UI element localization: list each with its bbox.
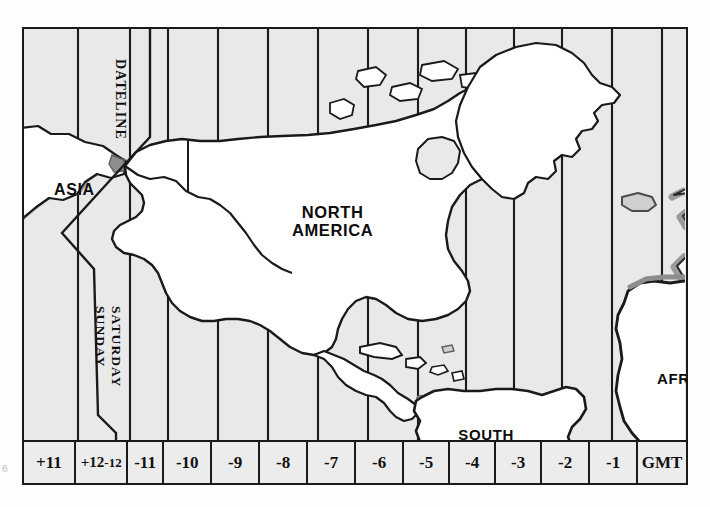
map-plot-area: DATELINE SATURDAY SUNDAY ASIA NORTH AMER… [24, 29, 686, 442]
zone-cell-minus9[interactable]: -9 [212, 442, 260, 483]
zone-label: -9 [228, 453, 242, 473]
zone-label: -8 [276, 453, 290, 473]
saturday-label: SATURDAY [108, 306, 124, 388]
zone-label: -11 [134, 453, 156, 473]
figure-canvas: 6 [0, 0, 710, 507]
zone-label: GMT [642, 453, 683, 473]
zone-cell-GMT[interactable]: GMT [638, 442, 686, 483]
page-margin-artifact: 6 [2, 462, 8, 474]
zone-label: -2 [558, 453, 572, 473]
zone-label-secondary: -12 [104, 455, 121, 471]
sunday-label: SUNDAY [92, 306, 108, 368]
zone-cell-minus8[interactable]: -8 [260, 442, 308, 483]
zone-label: -1 [606, 453, 620, 473]
zone-cell-minus5[interactable]: -5 [404, 442, 450, 483]
zone-cell-minus7[interactable]: -7 [308, 442, 356, 483]
zone-cell-minus11[interactable]: -11 [128, 442, 164, 483]
zone-cell-minus3[interactable]: -3 [496, 442, 542, 483]
zone-cell-plus12[interactable]: +12-12 [76, 442, 128, 483]
zone-cell-minus10[interactable]: -10 [164, 442, 212, 483]
asia-label: ASIA [54, 181, 95, 199]
zone-label: -4 [465, 453, 479, 473]
zone-label: -7 [324, 453, 338, 473]
zone-cell-minus1[interactable]: -1 [590, 442, 638, 483]
time-zone-offset-strip: +11+12-12-11-10-9-8-7-6-5-4-3-2-1GMT [24, 440, 686, 483]
zone-cell-minus6[interactable]: -6 [356, 442, 404, 483]
zone-label: -3 [511, 453, 525, 473]
zone-cell-minus2[interactable]: -2 [542, 442, 590, 483]
zone-label-primary: +12 [81, 454, 105, 471]
time-zone-map-frame: DATELINE SATURDAY SUNDAY ASIA NORTH AMER… [22, 27, 688, 485]
zone-label: -5 [419, 453, 433, 473]
zone-cell-plus11[interactable]: +11 [24, 442, 76, 483]
date-line-path [62, 29, 150, 442]
dateline-label: DATELINE [112, 59, 128, 140]
zone-cell-minus4[interactable]: -4 [450, 442, 496, 483]
north-america-label: NORTH AMERICA [292, 203, 373, 240]
zone-label: +11 [36, 453, 62, 473]
africa-label: AFRICA [657, 371, 686, 388]
zone-label: -10 [176, 453, 199, 473]
zone-label: -6 [372, 453, 386, 473]
